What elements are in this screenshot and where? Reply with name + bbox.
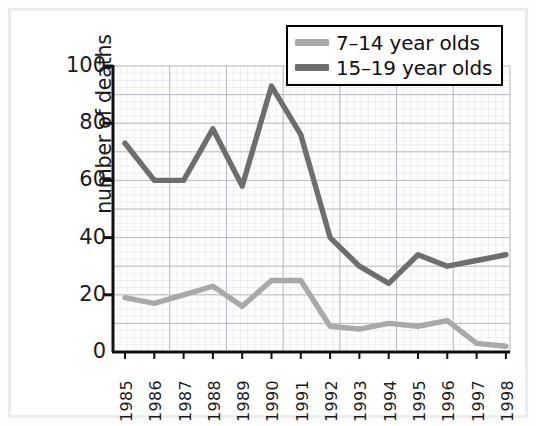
x-tick-label: 1988 (205, 380, 224, 422)
legend-label: 15–19 year olds (336, 56, 492, 80)
x-tick-label: 1993 (351, 380, 370, 422)
legend-item: 7–14 year olds (295, 30, 492, 55)
x-tick-label: 1994 (381, 380, 400, 422)
legend-item: 15–19 year olds (295, 55, 492, 80)
legend-swatch-dark (295, 64, 329, 71)
x-tick-label: 1989 (234, 380, 253, 422)
x-tick-label: 1991 (293, 380, 312, 422)
x-tick-label: 1986 (146, 380, 165, 422)
x-tick-label: 1995 (410, 380, 429, 422)
x-tick-label: 1996 (439, 380, 458, 422)
legend-swatch-light (295, 39, 329, 46)
x-tick-label: 1997 (469, 380, 488, 422)
x-tick-label: 1990 (263, 380, 282, 422)
line-chart-figure: number of deaths 100806040200 1985198619… (0, 0, 536, 426)
x-tick-label: 1992 (322, 380, 341, 422)
legend-label: 7–14 year olds (336, 31, 480, 55)
x-tick-label: 1987 (176, 380, 195, 422)
x-tick-label: 1998 (498, 380, 517, 422)
chart-page: number of deaths 100806040200 1985198619… (0, 0, 536, 426)
x-tick-label: 1985 (117, 380, 136, 422)
chart-legend: 7–14 year olds15–19 year olds (286, 25, 503, 86)
x-axis-tick-labels: 1985198619871988198919901991199219931994… (0, 358, 536, 422)
